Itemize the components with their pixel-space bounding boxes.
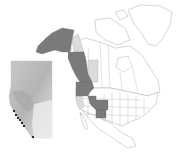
greenland <box>128 5 172 46</box>
occurrence-point <box>21 122 23 124</box>
occurrence-point <box>15 114 17 116</box>
range-new-mexico <box>96 110 106 118</box>
north-america-map <box>0 0 181 153</box>
arctic-archipelago <box>95 18 130 45</box>
occurrence-point <box>23 125 25 127</box>
range-alaska <box>36 28 74 54</box>
occurrence-point <box>32 136 34 138</box>
occurrence-point <box>17 117 19 119</box>
occurrence-point <box>13 110 15 112</box>
alberta-inset <box>9 61 52 138</box>
arctic-island <box>115 10 128 20</box>
occurrence-point <box>19 119 21 121</box>
